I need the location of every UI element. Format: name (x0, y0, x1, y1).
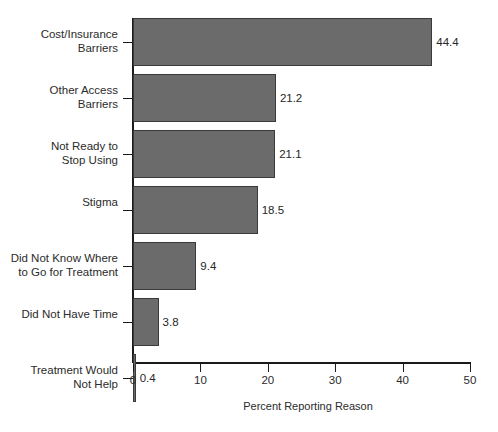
x-axis-tick (470, 364, 471, 372)
x-axis-title-text: Percent Reporting Reason (125, 400, 373, 412)
bar-row: 18.5 (133, 186, 470, 234)
y-axis-tick (123, 154, 133, 155)
x-axis-tick-label: 40 (396, 374, 409, 386)
bar (133, 74, 276, 122)
bar (133, 18, 432, 66)
bar-value-label: 9.4 (196, 260, 216, 272)
category-label: Stigma (0, 196, 118, 210)
y-axis-tick (123, 322, 133, 323)
bar (133, 242, 196, 290)
bar-value-label: 3.8 (159, 316, 179, 328)
bar (133, 130, 275, 178)
y-axis-tick (123, 98, 133, 99)
plot-area: 44.421.221.118.59.43.80.4 (133, 18, 470, 362)
bar-value-label: 18.5 (258, 204, 284, 216)
x-axis-tick (403, 364, 404, 372)
x-axis-tick-label: 50 (464, 374, 477, 386)
bar (133, 298, 159, 346)
bar-value-label: 21.1 (275, 148, 301, 160)
x-axis-tick-label: 0 (130, 374, 136, 386)
y-axis-tick (123, 266, 133, 267)
category-label: Other Access Barriers (0, 84, 118, 111)
bar-row: 3.8 (133, 298, 470, 346)
y-axis-tick (123, 42, 133, 43)
bar-row: 0.4 (133, 354, 470, 402)
x-axis-tick-label: 20 (261, 374, 274, 386)
x-axis-tick (335, 364, 336, 372)
category-label: Treatment Would Not Help (0, 364, 118, 391)
x-axis-tick (133, 364, 134, 372)
y-axis-tick (123, 210, 133, 211)
x-axis-tick-label: 30 (329, 374, 342, 386)
x-axis-title: Percent Reporting Reason (0, 400, 498, 412)
bar-row: 9.4 (133, 242, 470, 290)
category-label: Cost/Insurance Barriers (0, 28, 118, 55)
bar-value-label: 0.4 (136, 372, 156, 384)
x-axis-tick (268, 364, 269, 372)
bar-value-label: 21.2 (276, 92, 302, 104)
bar-value-label: 44.4 (432, 36, 458, 48)
bar-row: 44.4 (133, 18, 470, 66)
bar (133, 186, 258, 234)
x-axis-tick-label: 10 (194, 374, 207, 386)
category-label: Did Not Know Where to Go for Treatment (0, 252, 118, 279)
bar-row: 21.1 (133, 130, 470, 178)
bar-chart: 44.421.221.118.59.43.80.4 Cost/Insurance… (0, 0, 498, 432)
bar-row: 21.2 (133, 74, 470, 122)
category-label: Not Ready to Stop Using (0, 140, 118, 167)
x-axis-tick (200, 364, 201, 372)
category-label: Did Not Have Time (0, 308, 118, 322)
